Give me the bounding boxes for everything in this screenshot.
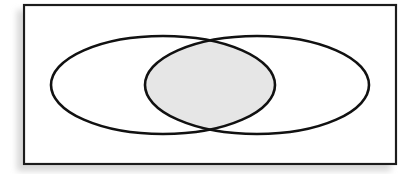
venn-diagram-figure bbox=[0, 0, 418, 174]
venn-diagram-canvas bbox=[0, 0, 418, 174]
